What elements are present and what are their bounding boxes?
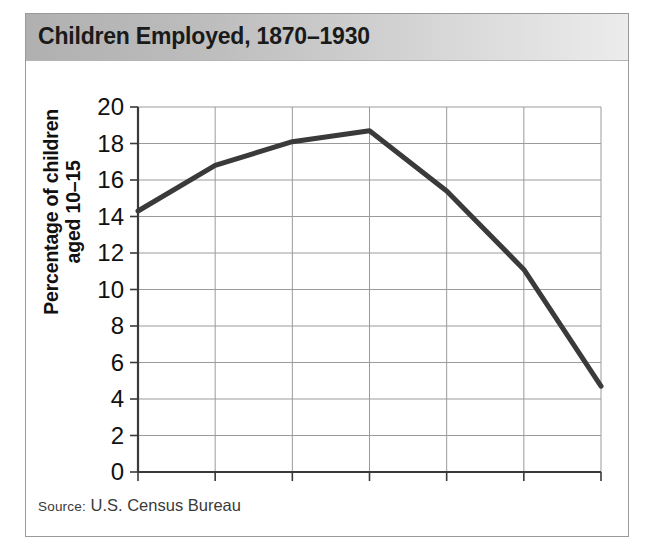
x-tick-marks xyxy=(138,472,601,481)
y-tick-label: 4 xyxy=(111,385,124,412)
y-tick-label: 16 xyxy=(97,166,124,193)
chart-figure: Children Employed, 1870–1930 Percentage … xyxy=(25,13,629,537)
y-tick-label: 20 xyxy=(97,93,124,120)
line-chart-plot: 02468101214161820 1870188018901900191019… xyxy=(26,62,628,491)
y-tick-label: 0 xyxy=(111,458,124,485)
y-tick-label: 10 xyxy=(97,276,124,303)
chart-title-bar: Children Employed, 1870–1930 xyxy=(26,14,628,61)
y-tick-label: 2 xyxy=(111,422,124,449)
chart-title: Children Employed, 1870–1930 xyxy=(38,23,370,50)
source-note: Source: U.S. Census Bureau xyxy=(38,496,241,515)
y-tick-label: 12 xyxy=(97,239,124,266)
y-tick-label: 8 xyxy=(111,312,124,339)
plot-region: Percentage of children aged 10–15 024681… xyxy=(26,62,628,491)
source-label: U.S. Census Bureau xyxy=(86,496,241,514)
y-tick-marks xyxy=(130,107,138,472)
y-tick-label: 18 xyxy=(97,130,124,157)
y-tick-label: 14 xyxy=(97,203,124,230)
y-tick-labels: 02468101214161820 xyxy=(97,93,124,485)
source-bar: Source: U.S. Census Bureau xyxy=(26,490,628,536)
source-prefix: Source: xyxy=(38,499,86,514)
y-tick-label: 6 xyxy=(111,349,124,376)
